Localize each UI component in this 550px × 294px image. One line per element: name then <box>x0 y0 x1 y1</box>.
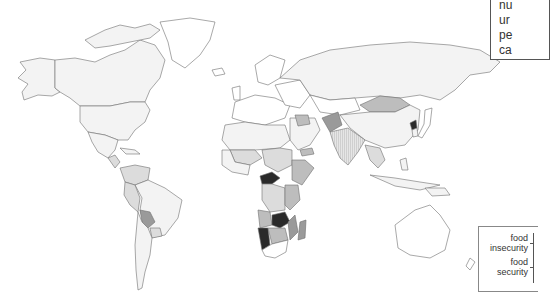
afghanistan-pakistan <box>322 112 342 132</box>
australia <box>395 205 450 258</box>
new-zealand <box>466 258 475 270</box>
russia <box>280 42 500 100</box>
legend-tick-top <box>530 243 534 244</box>
central-african-republic <box>260 172 280 184</box>
philippines <box>400 158 408 170</box>
scandinavia <box>255 55 285 85</box>
congo <box>262 184 285 212</box>
east-africa <box>285 185 300 210</box>
south-korea <box>412 128 418 137</box>
chad-sudan <box>262 148 292 172</box>
papua <box>425 188 450 196</box>
legend-bottom-label: food security <box>497 257 528 277</box>
title-line-1: nu <box>499 0 549 13</box>
legend-top-label: food insecurity <box>490 233 528 253</box>
mozambique <box>288 215 298 240</box>
angola <box>258 210 272 228</box>
greenland <box>160 18 215 68</box>
title-line-2: ur <box>499 13 549 28</box>
central-america <box>108 155 120 168</box>
madagascar <box>298 220 306 240</box>
north-africa <box>222 122 290 150</box>
canada <box>55 40 165 106</box>
legend-tick-bottom <box>530 267 534 268</box>
iceland <box>212 68 225 76</box>
caribbean <box>120 148 140 154</box>
uk <box>232 86 240 100</box>
paraguay <box>150 228 162 238</box>
title-line-4: ca <box>499 43 549 58</box>
map-title-box: nu ur pe ca <box>490 0 550 60</box>
western-europe <box>232 95 290 125</box>
alaska <box>18 58 60 100</box>
iraq-syria <box>295 115 310 126</box>
legend: food insecurity food security <box>478 226 538 292</box>
title-line-3: pe <box>499 28 549 43</box>
zambia <box>272 212 290 228</box>
ethiopia-somalia <box>292 160 314 185</box>
legend-axis <box>533 233 534 283</box>
yemen <box>300 148 314 156</box>
japan <box>418 108 432 138</box>
southeast-asia <box>365 145 385 168</box>
